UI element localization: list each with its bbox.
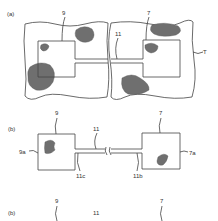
leader-11	[95, 133, 97, 149]
panel-a: (a) 9 7 11 T	[7, 10, 207, 100]
panel-b-label: (b)	[8, 126, 15, 132]
ref-7a: 7a	[189, 150, 196, 156]
defect-blob	[150, 23, 180, 36]
ref-11: 11	[93, 126, 100, 132]
leader-11b	[137, 153, 139, 171]
ref-9: 9	[55, 198, 59, 204]
ref-11: 11	[115, 31, 122, 37]
leader-9a	[29, 150, 38, 153]
ref-9a: 9a	[19, 149, 26, 155]
leader-7a	[180, 151, 188, 152]
ref-9: 9	[62, 10, 66, 16]
ref-11c: 11c	[76, 173, 85, 179]
defect-blob	[45, 140, 56, 153]
leader-9	[62, 17, 65, 41]
ref-11: 11	[93, 210, 100, 216]
leader-9	[56, 206, 58, 221]
leader-9	[55, 118, 57, 134]
ref-7: 7	[147, 10, 151, 16]
ref-11b: 11b	[133, 173, 143, 179]
leader-7	[146, 17, 149, 40]
ref-9: 9	[55, 110, 59, 116]
defect-blob	[145, 43, 158, 53]
leader-11c	[77, 153, 80, 171]
leader-7	[159, 118, 161, 133]
ref-7: 7	[160, 198, 164, 204]
region-7-outline	[111, 133, 180, 169]
defect-blob	[157, 154, 168, 165]
panel-a-label: (a)	[7, 11, 14, 17]
panel-c: (b) 9 11 7	[8, 198, 164, 221]
ref-7: 7	[159, 110, 163, 116]
defect-blob	[75, 27, 94, 43]
leader-7	[161, 206, 163, 221]
break-mark	[105, 147, 111, 155]
ref-T: T	[203, 49, 207, 55]
leader-11	[116, 38, 118, 59]
panel-b: (b) 9 7 11 9a 7a 11c 11b	[8, 110, 196, 179]
defect-blob	[122, 75, 149, 95]
patent-figure: (a) 9 7 11 T (b) 9	[0, 0, 218, 221]
defect-blob	[40, 44, 49, 51]
panel-c-label: (b)	[8, 210, 15, 216]
leader-T	[193, 52, 203, 54]
